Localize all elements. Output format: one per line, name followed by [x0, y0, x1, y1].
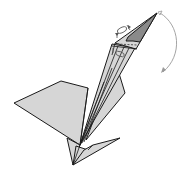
fold-direction-arrow	[158, 11, 177, 73]
wing	[14, 81, 88, 145]
feet	[67, 138, 120, 165]
neck	[80, 44, 135, 145]
origami-diagram	[0, 0, 191, 179]
